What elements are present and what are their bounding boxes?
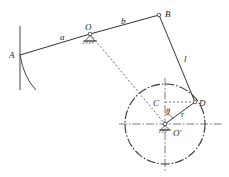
- joint-B: [157, 13, 161, 17]
- label-b: b: [121, 16, 126, 26]
- label-B: B: [165, 9, 171, 19]
- label-a: a: [60, 32, 65, 42]
- label-l: l: [184, 54, 187, 64]
- label-A: A: [8, 50, 15, 60]
- pivot-ground-O: [83, 32, 97, 44]
- label-O: O: [85, 22, 92, 32]
- label-r: r: [181, 110, 185, 119]
- linkage-diagram: A a O b B l C D θ r O': [0, 0, 229, 177]
- joint-D: [193, 100, 197, 104]
- label-D: D: [198, 98, 206, 108]
- label-theta: θ: [166, 107, 170, 116]
- label-Oprime: O': [173, 128, 182, 138]
- label-C: C: [153, 98, 160, 108]
- arc-path-A: [20, 55, 36, 90]
- link-a: [20, 34, 90, 55]
- link-l: [159, 15, 195, 102]
